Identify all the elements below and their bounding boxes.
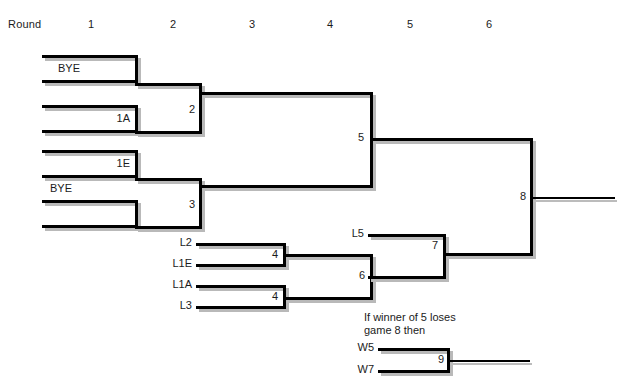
feeder-l2-label: L2 [148, 236, 192, 248]
game7-connector [443, 234, 446, 279]
round1-match2-bottom-line [42, 130, 138, 133]
feeder-w5-label: W5 [330, 341, 374, 353]
game4a-number: 4 [238, 248, 278, 260]
feeder-l5-label: L5 [322, 227, 364, 239]
round-header-1: 1 [88, 18, 94, 30]
feeder-l1e-label: L1E [148, 257, 192, 269]
game5-top-line [199, 92, 373, 95]
game9-number: 9 [404, 353, 444, 365]
feeder-l3-label: L3 [148, 299, 192, 311]
round-header-4: 4 [327, 18, 333, 30]
round-header-6: 6 [486, 18, 492, 30]
game9-top-line [378, 348, 450, 351]
game4b-number: 4 [238, 290, 278, 302]
round-header-word: Round [8, 18, 41, 30]
game8-winner-line [531, 197, 615, 199]
game9-bottom-line [378, 370, 450, 373]
if-necessary-note: If winner of 5 loses game 8 then [364, 311, 456, 337]
game6-bottom-line [283, 297, 373, 300]
game3-top-line [135, 178, 202, 181]
round-header-5: 5 [407, 18, 413, 30]
round1-match4-connector [135, 200, 138, 228]
game6-top-line [283, 254, 373, 257]
round1-match3-connector [135, 150, 138, 178]
game9-winner-line [448, 360, 530, 362]
game7-number: 7 [398, 239, 438, 251]
round1-match2-top-line [42, 105, 138, 108]
round1-match4-bottom-line [42, 225, 138, 228]
round-header-3: 3 [249, 18, 255, 30]
round1-match2-connector [135, 105, 138, 133]
game3-number: 3 [155, 198, 195, 210]
game8-number: 8 [490, 190, 526, 202]
round1-match4-seed: BYE [50, 182, 130, 194]
game7-bottom-line [368, 276, 446, 279]
game4b-bottom-line [196, 306, 286, 309]
round1-match1-seed: BYE [58, 62, 132, 74]
tournament-bracket-diagram: Round 1 2 3 4 5 6 BYE 1A 1E BYE 2 3 5 L2… [0, 0, 628, 382]
game4a-bottom-line [196, 264, 286, 267]
round1-match3-bottom-line [42, 175, 138, 178]
round1-match1-connector [135, 55, 138, 83]
game2-top-line [135, 83, 202, 86]
game6-number: 6 [325, 269, 365, 281]
round1-match4-top-line [42, 200, 138, 203]
game7-top-line [368, 234, 446, 237]
round1-match2-seed: 1A [50, 112, 130, 124]
round1-match1-top-line [42, 55, 138, 58]
round1-match1-bottom-line [42, 80, 138, 83]
game5-bottom-line [199, 185, 373, 188]
game4a-top-line [196, 243, 286, 246]
game2-bottom-line [135, 131, 202, 134]
game4b-top-line [196, 285, 286, 288]
game2-connector [199, 83, 202, 134]
feeder-w7-label: W7 [330, 363, 374, 375]
feeder-l1a-label: L1A [148, 278, 192, 290]
game3-bottom-line [135, 226, 202, 229]
round-header-2: 2 [170, 18, 176, 30]
round1-match3-seed: 1E [50, 157, 130, 169]
game5-number: 5 [320, 131, 364, 143]
game2-number: 2 [155, 103, 195, 115]
game8-top-line [370, 138, 533, 141]
game8-bottom-line [443, 253, 533, 256]
round1-match3-top-line [42, 150, 138, 153]
